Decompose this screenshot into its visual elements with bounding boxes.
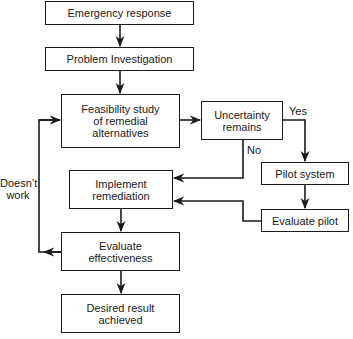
node-evaluate-effectiveness: Evaluate effectiveness bbox=[61, 232, 180, 271]
node-problem-investigation: Problem Investigation bbox=[45, 47, 194, 71]
node-implement-remediation: Implement remediation bbox=[69, 170, 173, 209]
edge-label-doesnt-work: Doesn’t work bbox=[0, 177, 36, 201]
node-emergency-response: Emergency response bbox=[45, 1, 194, 25]
node-desired-result: Desired result achieved bbox=[61, 294, 180, 333]
node-evaluate-pilot: Evaluate pilot bbox=[261, 209, 349, 232]
edge-label-no: No bbox=[247, 144, 261, 156]
edge-label-yes: Yes bbox=[289, 105, 307, 117]
node-feasibility-study: Feasibility study of remedial alternativ… bbox=[61, 94, 180, 148]
node-uncertainty-remains: Uncertainty remains bbox=[201, 101, 283, 140]
node-pilot-system: Pilot system bbox=[261, 162, 349, 185]
